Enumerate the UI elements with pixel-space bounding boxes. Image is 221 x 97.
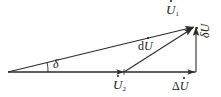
label-angle-delta: δ	[53, 58, 59, 70]
label-u2: U2	[113, 78, 126, 93]
phasor-diagram: U1 U2 dU δU ΔU δ	[0, 0, 221, 97]
label-delta-u-small: δU	[199, 24, 211, 38]
vector-du	[124, 28, 193, 72]
angle-arc-delta	[47, 62, 48, 72]
label-du: dU	[138, 40, 153, 52]
vector-u1	[8, 27, 194, 72]
label-delta-u-big: ΔU	[172, 80, 188, 92]
label-u1: U1	[166, 3, 179, 18]
